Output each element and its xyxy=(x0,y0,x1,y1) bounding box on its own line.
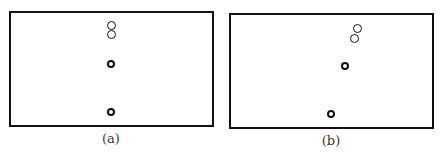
circle-marker-b-2 xyxy=(350,34,359,43)
circle-marker-b-1 xyxy=(353,24,362,33)
circle-marker-b-4 xyxy=(327,110,335,118)
circle-marker-a-1 xyxy=(107,21,116,30)
circle-marker-b-3 xyxy=(341,62,349,70)
circle-marker-a-2 xyxy=(107,30,116,39)
circle-marker-a-4 xyxy=(107,108,115,116)
panel-b-caption: (b) xyxy=(322,133,340,148)
circle-marker-a-3 xyxy=(107,60,115,68)
panel-a-caption: (a) xyxy=(102,131,120,146)
